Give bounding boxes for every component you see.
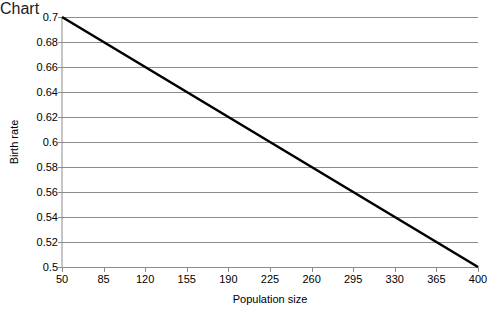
x-tick-label: 120 [123,273,167,285]
chart-container: 0.50.520.540.560.580.60.620.640.660.680.… [0,0,501,327]
x-axis-title: Population size [62,293,478,305]
x-tick-label: 330 [373,273,417,285]
x-tick-label: 295 [331,273,375,285]
x-tick-label: 190 [206,273,250,285]
x-tick-label: 155 [165,273,209,285]
x-tick-label: 225 [248,273,292,285]
x-tick-label: 260 [290,273,334,285]
x-tick-label: 400 [456,273,500,285]
x-tick-label: 85 [82,273,126,285]
x-tick-label: 50 [40,273,84,285]
y-axis-title: Birth rate [6,17,22,267]
x-tick-label: 365 [414,273,458,285]
x-axis-tick-labels: 5085120155190225260295330365400 [0,273,501,293]
